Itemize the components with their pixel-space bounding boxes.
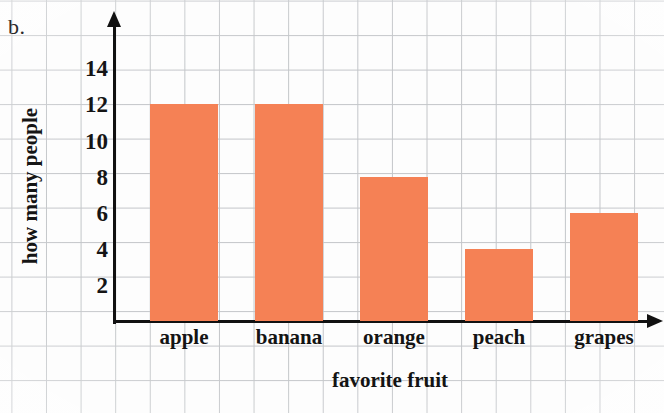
category-label-banana: banana — [229, 326, 349, 348]
y-axis-arrow-icon — [107, 11, 121, 27]
y-tick-label-14: 14 — [68, 57, 108, 80]
bar-chart-figure: b. 2468101214 how many people applebanan… — [0, 0, 664, 413]
y-tick-label-12: 12 — [68, 93, 108, 116]
y-tick-label-2: 2 — [68, 274, 108, 297]
category-label-apple: apple — [124, 326, 244, 348]
y-tick-label-8: 8 — [68, 165, 108, 188]
problem-letter: b. — [8, 14, 26, 40]
x-axis-title: favorite fruit — [300, 368, 480, 393]
category-label-orange: orange — [334, 326, 454, 348]
category-label-grapes: grapes — [544, 326, 664, 348]
y-tick-label-10: 10 — [68, 129, 108, 152]
y-axis-line — [113, 24, 116, 324]
y-axis-title: how many people — [18, 71, 43, 301]
bar-banana — [255, 104, 323, 321]
bar-grapes — [570, 213, 638, 322]
bar-peach — [465, 249, 533, 321]
bar-apple — [150, 104, 218, 321]
category-label-peach: peach — [439, 326, 559, 348]
y-axis-tick-labels: 2468101214 — [66, 0, 108, 413]
y-tick-label-4: 4 — [68, 238, 108, 261]
y-tick-label-6: 6 — [68, 201, 108, 224]
bar-orange — [360, 177, 428, 322]
